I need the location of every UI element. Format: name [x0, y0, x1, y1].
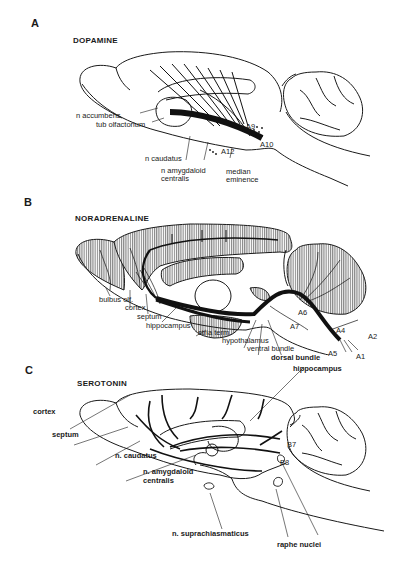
panel-dopamine: A DOPAMINE	[0, 0, 397, 190]
label-tub-olfactorium: tub olfactorium	[96, 121, 145, 129]
label-a12: A12	[221, 148, 234, 156]
label-a6: A6	[298, 309, 307, 317]
label-raphe-nuclei: raphe nuclei	[277, 541, 321, 549]
panel-serotonin: C SEROTONIN	[0, 355, 397, 555]
label-septum: septum	[137, 313, 162, 321]
label-n-amygdaloid: n. amygdaloid	[143, 468, 193, 476]
label-b7: B7	[287, 441, 296, 449]
label-n-caudatus: n caudatus	[145, 155, 182, 163]
label-a7: A7	[290, 323, 299, 331]
figure-caption-cropped	[0, 556, 397, 564]
label-ventral-bundle: ventral bundle	[247, 345, 294, 353]
label-n-accumbens: n accumbens	[76, 112, 121, 120]
label-a10: A10	[260, 141, 273, 149]
label-cortex: cortex	[33, 408, 56, 416]
label-a2: A2	[368, 333, 377, 341]
serotonin-brain-diagram	[0, 355, 397, 555]
label-a9: A9	[246, 123, 255, 131]
label-centralis: centralis	[161, 175, 189, 183]
label-a4: A4	[336, 327, 345, 335]
label-n-suprachiasmaticus: n. suprachiasmaticus	[172, 530, 249, 538]
label-hippocampus: hippocampus	[146, 322, 191, 330]
label-eminence: eminence	[226, 176, 259, 184]
label-cortex: cortex	[125, 304, 145, 312]
label-septum: septum	[52, 431, 79, 439]
panel-noradrenaline: B NORADRENALINE	[0, 190, 397, 355]
dopamine-brain-diagram	[0, 0, 397, 190]
label-hippocampus: hippocampus	[293, 365, 342, 373]
label-b8: B8	[280, 459, 289, 467]
label-centralis: centralis	[143, 477, 174, 485]
label-n-caudatus: n. caudatus	[115, 452, 157, 460]
